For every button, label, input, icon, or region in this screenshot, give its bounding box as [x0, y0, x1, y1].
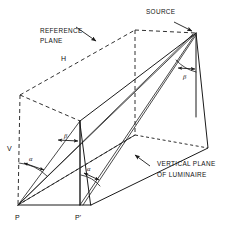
diagram-canvas: α β α β SOURCE REFEREN	[0, 0, 225, 227]
source-label: SOURCE	[146, 8, 175, 15]
reference-plane-label-line1: REFERENCE	[40, 27, 83, 34]
dimension-label-v: V	[7, 145, 12, 152]
angle-alpha-left: α	[19, 155, 47, 176]
dimension-label-h: H	[61, 55, 66, 62]
technical-diagram: α β α β SOURCE REFEREN	[0, 0, 225, 227]
reference-plane-outline	[18, 30, 208, 205]
angle-beta-right-label: β	[182, 73, 187, 80]
vertical-plane-leader-line	[135, 155, 150, 166]
angle-beta-right: β	[176, 60, 196, 80]
vertical-dimension-line-v	[18, 95, 20, 205]
point-label-p-prime: P'	[75, 214, 81, 221]
vertical-plane-of-luminaire-outline	[80, 33, 208, 205]
angle-alpha-left-label: α	[29, 155, 33, 162]
source-leader-line	[174, 22, 192, 31]
angle-beta-left: β	[58, 132, 78, 141]
vertical-plane-label-line2: OF LUMINAIRE	[157, 171, 207, 178]
point-label-p: P	[15, 214, 20, 221]
vertical-plane-label-line1: VERTICAL PLANE	[157, 160, 216, 167]
angle-alpha-lower: α	[81, 165, 100, 186]
angle-alpha-lower-label: α	[87, 165, 91, 172]
reference-plane-label-line2: PLANE	[40, 37, 63, 44]
ray-bundle	[18, 33, 196, 205]
